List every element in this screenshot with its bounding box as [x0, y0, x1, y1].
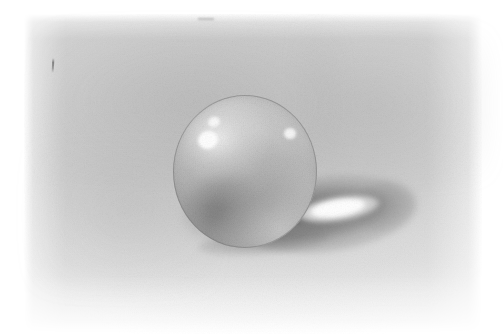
- highlight-right: [284, 128, 296, 139]
- artwork-canvas: Graphite sphere study glass sphere with …: [0, 0, 503, 334]
- background-tone-upper-right: [300, 30, 490, 180]
- top-edge-pencil-tick: [198, 18, 214, 20]
- sphere-outline: [173, 95, 317, 248]
